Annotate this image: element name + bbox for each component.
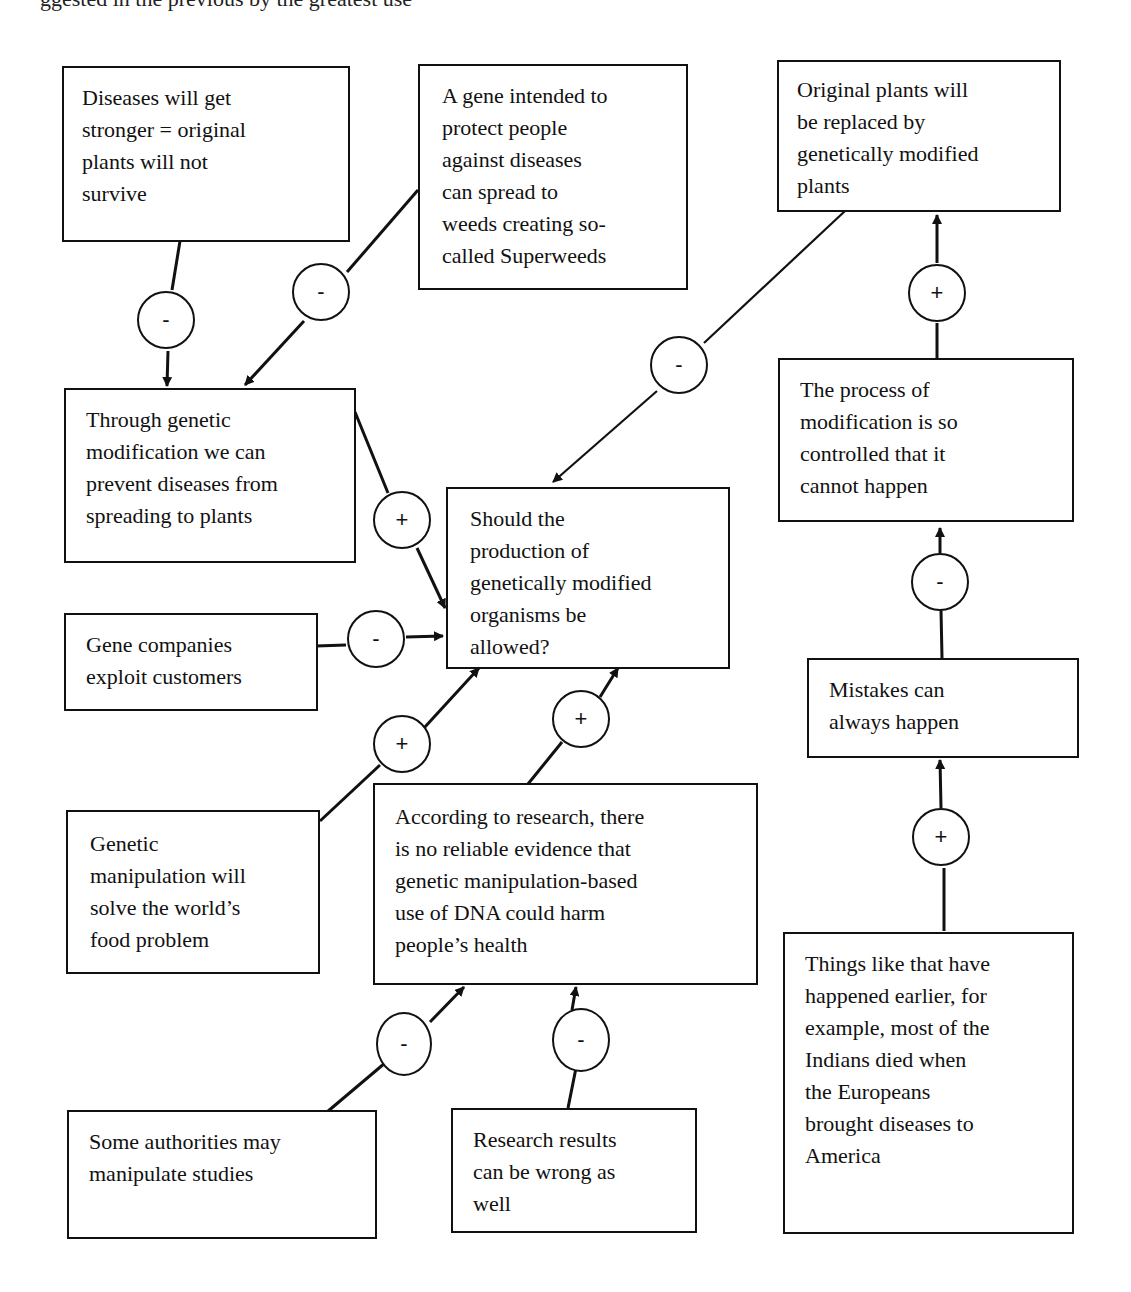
link-node-food-problem: +	[373, 715, 431, 773]
link-node-mistakes: -	[911, 553, 969, 611]
link-node-original-replaced: -	[650, 336, 708, 394]
argument-box-history-europeans: Things like that have happened earlier, …	[783, 932, 1074, 1234]
argument-box-superweeds: A gene intended to protect people agains…	[418, 64, 688, 290]
argument-box-authorities-manipulate: Some authorities may manipulate studies	[67, 1110, 377, 1239]
link-node-authorities-manipulate: -	[376, 1012, 432, 1076]
argument-box-research-wrong: Research results can be wrong as well	[451, 1108, 697, 1233]
argument-box-process-controlled: The process of modification is so contro…	[778, 358, 1074, 522]
link-node-superweeds: -	[292, 263, 350, 321]
argument-box-prevent-diseases: Through genetic modification we can prev…	[64, 388, 356, 563]
link-node-diseases-stronger: -	[137, 291, 195, 349]
link-node-research-wrong: -	[552, 1008, 610, 1072]
argument-box-research-no-evidence: According to research, there is no relia…	[373, 783, 758, 985]
argument-box-diseases-stronger: Diseases will get stronger = original pl…	[62, 66, 350, 242]
link-node-prevent-diseases: +	[373, 491, 431, 549]
argument-box-mistakes: Mistakes can always happen	[807, 658, 1079, 758]
argument-box-gene-companies: Gene companies exploit customers	[64, 613, 318, 711]
link-node-process-controlled: +	[908, 264, 966, 322]
link-node-research-no-evidence: +	[552, 690, 610, 748]
link-node-gene-companies: -	[347, 610, 405, 668]
argument-box-original-replaced: Original plants will be replaced by gene…	[777, 60, 1061, 212]
link-node-history-europeans: +	[912, 808, 970, 866]
argument-box-food-problem: Genetic manipulation will solve the worl…	[66, 810, 320, 974]
central-question-box: Should the production of genetically mod…	[446, 487, 730, 669]
